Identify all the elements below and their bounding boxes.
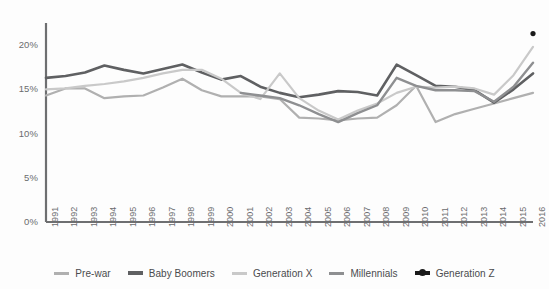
legend-item-label: Millennials [350, 268, 397, 279]
x-axis-tick-label: 1993 [89, 207, 99, 227]
x-axis-tick-label: 2006 [342, 207, 352, 227]
y-axis-tick-label: 15% [4, 83, 38, 94]
x-axis-tick-label: 2014 [498, 207, 508, 227]
x-axis-tick-label: 2010 [420, 207, 430, 227]
y-axis-tick-label: 10% [4, 128, 38, 139]
legend-swatch-icon [54, 272, 69, 275]
x-axis-tick-label: 1998 [186, 207, 196, 227]
legend-item[interactable]: Generation Z [415, 268, 495, 279]
legend-swatch-icon [329, 272, 344, 275]
y-axis-tick-label: 5% [4, 172, 38, 183]
x-axis-tick-label: 2002 [264, 207, 274, 227]
x-axis-tick-label: 2013 [479, 207, 489, 227]
x-axis-tick-label: 1991 [50, 207, 60, 227]
x-axis-tick-label: 2005 [323, 207, 333, 227]
series-lines [46, 31, 536, 122]
x-axis-tick-label: 1995 [128, 207, 138, 227]
x-axis-tick-label: 2009 [401, 207, 411, 227]
x-axis-tick-label: 2008 [381, 207, 391, 227]
legend-swatch-icon [128, 271, 143, 275]
x-axis-tick-label: 1999 [206, 207, 216, 227]
x-axis-tick-label: 2001 [245, 207, 255, 227]
legend-item[interactable]: Millennials [329, 268, 397, 279]
x-axis-tick-label: 2003 [284, 207, 294, 227]
x-axis-tick-label: 1992 [69, 207, 79, 227]
axis-lines [46, 23, 533, 222]
legend-item-label: Generation Z [436, 268, 495, 279]
legend-swatch-icon [415, 271, 430, 275]
x-axis-tick-label: 2007 [362, 207, 372, 227]
x-axis-tick-label: 2016 [537, 207, 547, 227]
legend-item-label: Generation X [253, 268, 313, 279]
plot-area: 0%5%10%15%20% 19911992199319941995199619… [0, 0, 549, 250]
x-axis-tick-label: 2012 [459, 207, 469, 227]
legend-item[interactable]: Generation X [232, 268, 313, 279]
line-chart: 0%5%10%15%20% 19911992199319941995199619… [0, 0, 549, 289]
x-axis-tick-label: 1996 [147, 207, 157, 227]
legend-item[interactable]: Pre-war [54, 268, 110, 279]
x-axis-tick-label: 2015 [518, 207, 528, 227]
x-axis-tick-label: 2011 [440, 207, 450, 227]
legend-swatch-icon [232, 272, 247, 275]
x-axis-tick-label: 2004 [303, 207, 313, 227]
x-axis-tick-label: 1994 [108, 207, 118, 227]
y-axis-tick-label: 20% [4, 39, 38, 50]
legend-item[interactable]: Baby Boomers [128, 268, 215, 279]
series-point-marker [530, 31, 535, 36]
chart-legend: Pre-warBaby BoomersGeneration XMillennia… [0, 262, 549, 284]
legend-item-label: Pre-war [75, 268, 110, 279]
x-axis-tick-label: 2000 [225, 207, 235, 227]
legend-item-label: Baby Boomers [149, 268, 215, 279]
y-axis-tick-label: 0% [4, 216, 38, 227]
x-axis-tick-label: 1997 [167, 207, 177, 227]
